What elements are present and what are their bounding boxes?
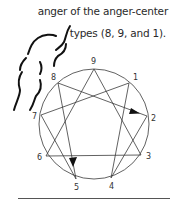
- enneagram-circle: [39, 69, 149, 179]
- point-label-4: 4: [109, 182, 114, 191]
- arrow-8-to-5-icon: [69, 157, 77, 167]
- point-label-3: 3: [146, 152, 151, 161]
- triangle-lines: [46, 69, 141, 156]
- wing-icon: [14, 26, 70, 110]
- section-divider: [18, 198, 170, 199]
- point-label-8: 8: [51, 73, 56, 82]
- point-label-1: 1: [133, 73, 138, 82]
- arrow-8-to-2-icon: [129, 108, 140, 114]
- point-label-9: 9: [91, 57, 96, 66]
- point-label-7: 7: [32, 112, 37, 121]
- point-label-2: 2: [151, 114, 156, 123]
- point-label-5: 5: [74, 183, 79, 192]
- point-label-6: 6: [37, 153, 42, 162]
- enneagram-figure: 9 1 2 3 4 5 6 7 8: [0, 0, 178, 202]
